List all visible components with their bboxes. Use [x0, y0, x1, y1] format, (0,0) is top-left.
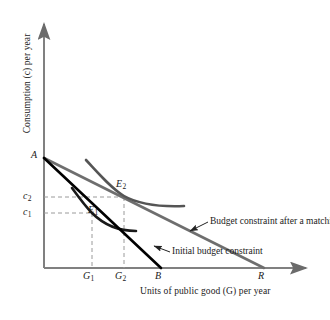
tick-label-c1-sub: 1	[27, 210, 31, 219]
point-label-A-text: A	[31, 149, 37, 160]
tick-label-c2: c2	[23, 190, 32, 203]
tick-label-G1: G1	[83, 270, 94, 283]
initial-budget-annotation-arrow	[154, 246, 170, 252]
tick-label-G2-sub: 2	[122, 274, 126, 283]
tick-label-G1-sub: 1	[90, 274, 94, 283]
matching-grant-annotation-arrow	[190, 222, 208, 231]
point-label-R: R	[258, 270, 264, 282]
point-label-B: B	[155, 270, 161, 282]
economics-budget-constraint-figure: Consumption (c) per year Units of public…	[0, 0, 330, 320]
tick-label-c2-sub: 2	[27, 194, 31, 203]
point-label-E1-sub: 1	[94, 208, 98, 217]
annotation-matching-grant: Budget constraint after a matching grant	[210, 216, 328, 227]
y-axis-title: Consumption (c) per year	[22, 8, 33, 158]
point-label-R-text: R	[258, 270, 264, 281]
tick-label-c1: c1	[23, 206, 32, 219]
point-label-B-text: B	[155, 270, 161, 281]
figure-canvas	[0, 0, 330, 320]
point-label-E2-sub: 2	[122, 182, 126, 191]
guide-lines-group	[44, 197, 124, 268]
x-axis-title: Units of public good (G) per year	[140, 286, 270, 297]
tick-label-G2: G2	[115, 270, 126, 283]
point-label-A: A	[31, 149, 37, 161]
point-label-E1: E1	[88, 204, 98, 217]
axes-group	[44, 24, 306, 268]
point-label-E2: E2	[116, 178, 126, 191]
indifference-curve-2	[86, 160, 184, 206]
annotation-initial-budget: Initial budget constraint	[172, 246, 242, 257]
